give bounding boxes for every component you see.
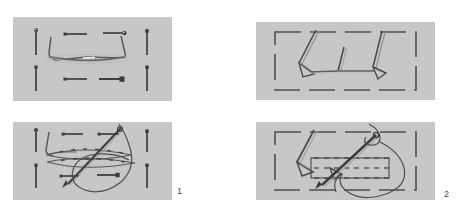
panel-top-right (256, 22, 435, 100)
thread-loop (335, 124, 405, 198)
pin-vertical-right-lower (145, 164, 148, 188)
pin-angled-right (373, 31, 386, 79)
pin-horizontal-lower-right (97, 173, 120, 177)
needle (315, 132, 379, 189)
pin-angled-middle (338, 47, 347, 72)
pin-horizontal-upper-right (103, 31, 127, 35)
figure-sheet: 1 2 (0, 0, 459, 213)
pin-vertical-left-upper (34, 128, 38, 152)
pin-vertical-right-upper (145, 129, 148, 152)
panel-bottom-left (13, 122, 172, 200)
panel-top-right-illustration (256, 22, 435, 100)
pin-horizontal-lower-right (99, 76, 125, 81)
panel-bottom-right-illustration (256, 122, 435, 200)
pin-horizontal-lower-left (64, 78, 88, 81)
pin-vertical-right-upper (145, 29, 148, 55)
figure-label-1: 1 (177, 187, 182, 196)
arch-wire (49, 36, 126, 62)
pin-vertical-left-upper (34, 28, 38, 55)
stitched-rows (311, 158, 389, 178)
panel-bottom-left-illustration (13, 122, 172, 200)
pin-vertical-left-lower (34, 164, 37, 188)
panel-bottom-right (256, 122, 435, 200)
pin-vertical-left-lower (34, 66, 37, 92)
dashed-frame (275, 32, 416, 90)
pin-angled-left (297, 130, 317, 176)
pin-horizontal-upper-left (64, 33, 88, 36)
panel-top-left (13, 17, 172, 101)
figure-label-2: 2 (444, 190, 449, 199)
panel-top-left-illustration (13, 17, 172, 101)
connector-wire (311, 71, 375, 73)
pin-vertical-right-lower (145, 66, 148, 92)
pin-angled-left (299, 30, 319, 77)
pin-horizontal-upper-left (62, 133, 83, 136)
